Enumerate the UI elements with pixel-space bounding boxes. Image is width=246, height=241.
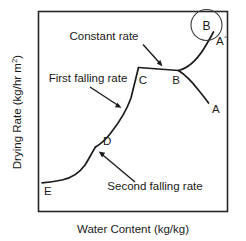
- point-label-a-prime: A´: [216, 35, 228, 47]
- y-axis-label-suffix: ): [11, 55, 23, 59]
- drying-rate-curve-figure: B A´ A B C D E Constant rate First falli…: [0, 0, 246, 241]
- annotation-first-falling-rate: First falling rate: [49, 72, 128, 84]
- x-axis-label: Water Content (kg/kg): [77, 223, 189, 235]
- callout-label-b: B: [202, 19, 210, 33]
- y-axis-label: Drying Rate (kg/hr m2): [10, 55, 23, 170]
- plot-canvas: B A´ A B C D E Constant rate First falli…: [0, 0, 246, 241]
- annotation-constant-rate: Constant rate: [69, 30, 138, 42]
- point-label-c: C: [139, 74, 147, 86]
- point-label-d: D: [103, 135, 111, 147]
- point-label-b: B: [172, 74, 180, 86]
- annotation-second-falling-rate: Second falling rate: [107, 180, 202, 192]
- point-label-a: A: [212, 103, 220, 115]
- y-axis-label-prefix: Drying Rate (kg/hr m: [11, 63, 23, 169]
- point-label-e: E: [44, 185, 52, 197]
